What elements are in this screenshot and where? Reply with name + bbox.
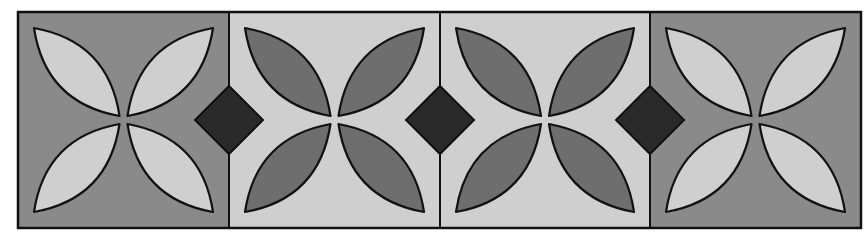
quilt-border-figure [0,0,867,239]
